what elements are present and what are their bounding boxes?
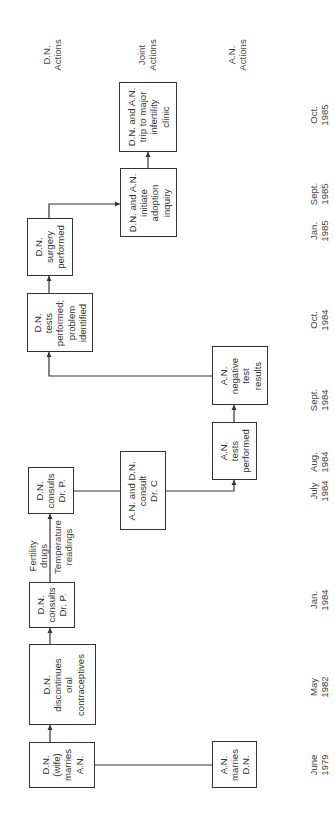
event-text: A.N. negative test results: [218, 357, 263, 393]
lane-header-dn: D.N. Actions: [41, 39, 63, 70]
event-box-dn-surgery: D.N. surgery performed: [27, 218, 73, 276]
lane-header-joint: Joint Actions: [136, 39, 158, 70]
date-label: Sept. 1985: [308, 183, 330, 205]
arrowhead-icon: [48, 514, 53, 519]
event-box-joint-consult-drc: A.N. and D.N. consult Dr. C: [120, 451, 166, 530]
event-text: D.N. and A.N. initiate adoption inquiry: [126, 173, 171, 232]
date-label: July 1984: [308, 480, 330, 501]
event-box-dn-consults-1: D.N. consults Dr. P.: [29, 582, 75, 628]
event-box-joint-clinic: D.N. and A.N. trip to major infertility …: [119, 82, 177, 152]
arrowhead-icon: [48, 725, 53, 730]
date-label: Sept. 1984: [308, 389, 330, 411]
connector-dn-surgery-to-joint-adoption: [49, 204, 120, 218]
event-text: D.N. (wife) marries A.N.: [40, 749, 85, 781]
event-text: D.N. consults Dr. P.: [34, 473, 68, 508]
arrowhead-icon: [47, 352, 52, 357]
date-label: Oct. 1985: [308, 104, 330, 125]
event-text: D.N. surgery performed: [33, 225, 67, 269]
date-label: May 1982: [308, 676, 330, 697]
arrowhead-icon: [47, 276, 52, 281]
date-label: June 1979: [308, 754, 330, 775]
event-box-dn-consults-2: D.N. consults Dr. P.: [28, 467, 74, 514]
annotation-temperature-readings: Temperature readings: [52, 520, 74, 574]
event-text: D.N. tests performed; problem identified: [32, 299, 88, 345]
event-box-an-negative: A.N. negative test results: [212, 346, 268, 405]
event-box-dn-discontinues: D.N. discontinues oral contraceptives: [29, 644, 96, 725]
annotation-fertility-drugs: Fertility drugs: [27, 541, 49, 572]
arrowhead-icon: [146, 152, 151, 157]
event-text: D.N. and A.N. trip to major infertility …: [126, 88, 171, 147]
arrowhead-icon: [232, 405, 237, 410]
event-text: D.N. consults Dr. P.: [35, 587, 69, 622]
date-label: Jan. 1985: [308, 220, 330, 241]
connector-joint-consult-drc-to-an-tests: [166, 480, 234, 491]
date-label: Oct. 1984: [308, 309, 330, 330]
date-label: Aug. 1984: [308, 451, 330, 472]
arrowhead-icon: [48, 628, 53, 633]
event-box-joint-adoption: D.N. and A.N. initiate adoption inquiry: [120, 168, 177, 237]
arrowhead-icon: [232, 480, 237, 485]
event-text: A.N. and D.N. consult Dr. C: [126, 461, 160, 520]
date-label: Jan. 1984: [308, 589, 330, 610]
event-box-an-marries: A.N. marries D.N.: [212, 741, 257, 788]
lane-header-an: A.N. Actions: [226, 39, 248, 70]
timeline-diagram: D.N. ActionsJoint ActionsA.N. Actions Ju…: [0, 0, 335, 817]
connector-an-negative-to-dn-tests: [49, 352, 212, 376]
event-box-dn-tests: D.N. tests performed; problem identified: [27, 293, 93, 352]
event-text: A.N. tests performed: [218, 429, 252, 473]
event-text: A.N. marries D.N.: [218, 749, 252, 781]
event-box-dn-marries: D.N. (wife) marries A.N.: [29, 742, 95, 788]
event-text: D.N. discontinues oral contraceptives: [40, 654, 85, 716]
event-box-an-tests: A.N. tests performed: [212, 422, 257, 480]
